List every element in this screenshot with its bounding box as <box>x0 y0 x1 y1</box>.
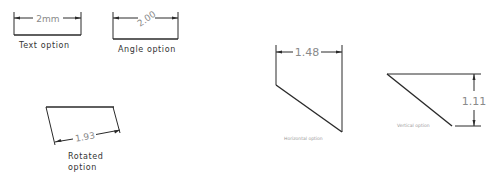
rotated-option-example: 1.93 Rotated option <box>46 107 120 172</box>
arrowhead-left-icon <box>113 17 119 20</box>
arrowhead-right-icon <box>75 17 81 20</box>
arrowhead-right-icon <box>172 17 178 20</box>
dimension-value: 1.48 <box>295 46 320 59</box>
arrowhead-top-icon <box>473 74 476 80</box>
dimension-options-diagram: 2mm Text option 2.00 Angle option 1.93 R… <box>0 0 502 172</box>
arrowhead-left-icon <box>14 17 20 20</box>
example-label: Vertical option <box>397 123 430 128</box>
measured-edge <box>276 85 342 132</box>
arrowhead-bottom-icon <box>473 120 476 126</box>
horizontal-option-example: 1.48 Horizontal option <box>276 45 342 141</box>
vertical-option-example: 1.11 Vertical option <box>387 74 486 128</box>
dimension-value: 2mm <box>36 14 59 24</box>
extension-line-right <box>113 107 120 133</box>
text-option-example: 2mm Text option <box>14 12 81 50</box>
example-label-line2: option <box>68 163 97 172</box>
dimension-value: 1.11 <box>462 95 487 108</box>
arrowhead-right-icon <box>336 51 342 54</box>
dimension-value: 1.93 <box>74 130 95 143</box>
example-label: Horizontal option <box>284 136 323 141</box>
example-label-line1: Rotated <box>68 152 103 161</box>
extension-line-left <box>46 107 55 145</box>
measured-edge <box>387 74 452 126</box>
dimension-value: 2.00 <box>135 9 157 29</box>
angle-option-example: 2.00 Angle option <box>113 9 178 54</box>
arrowhead-left-icon <box>276 51 282 54</box>
example-label: Angle option <box>118 45 176 54</box>
example-label: Text option <box>18 41 70 50</box>
